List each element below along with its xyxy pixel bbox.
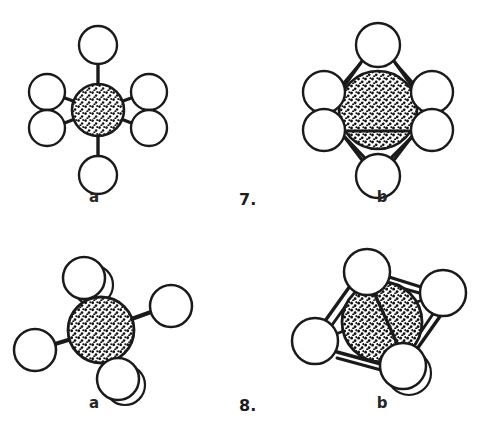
vertex-top: [344, 249, 390, 295]
vertex-right: [420, 270, 466, 316]
vertex-top: [356, 23, 400, 67]
central-metal-sphere: [339, 71, 417, 149]
vertex-lower-left: [303, 109, 345, 151]
vertex-left: [292, 318, 338, 364]
figure-page: a b 7. a b 8.: [0, 0, 483, 436]
ligand-upper-left: [29, 74, 65, 110]
ligand-right: [150, 285, 192, 327]
ligand-upper-right: [131, 74, 167, 110]
vertex-upper-left: [303, 71, 345, 113]
caption-7b: b: [362, 190, 402, 205]
central-metal-sphere: [72, 84, 124, 136]
octahedron-polyhedron-drawing: [280, 0, 483, 200]
panel-7b: [280, 0, 483, 200]
ligand-top: [79, 26, 117, 64]
vertex-bottom: [380, 343, 426, 389]
octahedral-ball-and-stick-drawing: [0, 0, 210, 200]
caption-8b: b: [362, 396, 402, 411]
ligand-lower-right: [131, 110, 167, 146]
panel-8b: [280, 240, 483, 410]
ligand-bottom: [97, 358, 139, 400]
ligand-lower-left: [29, 110, 65, 146]
tetrahedron-polyhedron-drawing: [280, 240, 483, 410]
ligand-left: [14, 329, 56, 371]
vertex-lower-right: [411, 109, 453, 151]
caption-8a: a: [74, 396, 114, 411]
ligand-upper: [63, 257, 105, 299]
tetrahedral-ball-and-stick-drawing: [0, 240, 210, 410]
central-metal-sphere: [68, 297, 134, 363]
vertex-upper-right: [411, 71, 453, 113]
caption-7a: a: [74, 190, 114, 205]
figure-number-7: 7.: [239, 192, 285, 208]
panel-8a: [0, 240, 210, 410]
panel-7a: [0, 0, 210, 200]
figure-number-8: 8.: [239, 398, 285, 414]
